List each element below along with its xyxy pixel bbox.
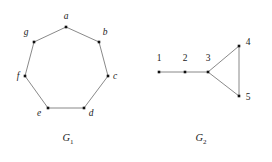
vertex-d — [83, 107, 86, 110]
vertex-label-g: g — [24, 27, 29, 37]
edge-3-4 — [208, 46, 239, 72]
vertex-label-5: 5 — [246, 92, 251, 102]
vertex-f — [24, 75, 27, 78]
edge-g-a — [34, 27, 66, 42]
figure-root: abcdefgG1 12345G2 — [0, 0, 272, 162]
vertex-label-e: e — [37, 108, 41, 118]
vertex-5 — [238, 95, 241, 98]
vertex-label-f: f — [17, 71, 21, 81]
vertex-label-3: 3 — [206, 53, 211, 63]
graph-caption-g2: G2 — [195, 132, 207, 146]
vertex-label-2: 2 — [183, 53, 188, 63]
edge-3-5 — [208, 72, 239, 96]
edge-e-f — [25, 76, 48, 108]
vertex-label-c: c — [113, 71, 118, 81]
vertex-a — [65, 26, 68, 29]
edge-c-d — [84, 76, 108, 108]
graph-caption-subscript: 1 — [70, 138, 74, 146]
vertex-label-1: 1 — [157, 53, 162, 63]
graph-figure-canvas: abcdefgG1 12345G2 — [0, 0, 272, 162]
vertex-label-d: d — [89, 108, 94, 118]
graph-g2: 12345G2 — [157, 37, 251, 146]
graph-caption-g1: G1 — [62, 132, 74, 146]
vertex-label-4: 4 — [246, 37, 251, 47]
vertex-g — [33, 41, 36, 44]
edge-a-b — [66, 27, 99, 42]
graph-caption-subscript: 2 — [203, 138, 207, 146]
graph-g1: abcdefgG1 — [17, 11, 118, 146]
vertex-4 — [238, 45, 241, 48]
vertex-1 — [158, 71, 161, 74]
vertex-label-a: a — [64, 11, 69, 21]
vertex-label-b: b — [103, 27, 108, 37]
edge-f-g — [25, 42, 34, 76]
vertex-3 — [207, 71, 210, 74]
edge-b-c — [99, 42, 108, 76]
vertex-c — [107, 75, 110, 78]
vertex-b — [98, 41, 101, 44]
vertex-2 — [184, 71, 187, 74]
vertex-e — [47, 107, 50, 110]
